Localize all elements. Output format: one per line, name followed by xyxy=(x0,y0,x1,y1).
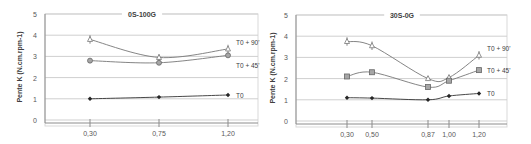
y-axis-label: Pente K (N.cm.rpm-1) xyxy=(16,31,24,102)
circle-marker-icon xyxy=(157,60,162,65)
series-label: T0 + 90' xyxy=(487,45,510,52)
series-label: T0 xyxy=(487,90,495,97)
square-marker-icon xyxy=(345,74,350,79)
square-marker-icon xyxy=(370,70,375,75)
y-tick-label: 4 xyxy=(284,33,288,40)
diamond-marker-icon xyxy=(477,91,481,95)
triangle-marker-icon xyxy=(88,36,93,41)
y-tick-label: 0 xyxy=(33,117,37,124)
x-tick-label: 0,50 xyxy=(365,131,379,138)
series-label: T0 + 45' xyxy=(487,67,510,74)
chart-right-svg: 0123450,300,500,871,001,2030S-0GPente K … xyxy=(265,0,531,144)
square-marker-icon xyxy=(477,68,482,73)
chart-left: 0123450,300,751,200S-100GPente K (N.cm.r… xyxy=(0,0,265,144)
diamond-marker-icon xyxy=(447,94,451,98)
diamond-marker-icon xyxy=(345,95,349,99)
square-marker-icon xyxy=(447,78,452,83)
circle-marker-icon xyxy=(226,53,231,58)
chart-right: 0123450,300,500,871,001,2030S-0GPente K … xyxy=(265,0,531,144)
y-tick-label: 1 xyxy=(33,96,37,103)
diamond-marker-icon xyxy=(226,93,230,97)
y-axis-label: Pente K (N.cm.rpm-1) xyxy=(269,32,277,103)
plot-frame xyxy=(45,14,258,126)
chart-title: 30S-0G xyxy=(390,12,415,19)
y-tick-label: 2 xyxy=(33,75,37,82)
y-tick-label: 1 xyxy=(284,97,288,104)
x-tick-label: 1,20 xyxy=(221,130,235,137)
x-tick-label: 0,30 xyxy=(340,131,354,138)
square-marker-icon xyxy=(426,85,431,90)
series-line xyxy=(347,93,479,99)
circle-marker-icon xyxy=(88,58,93,63)
y-tick-label: 4 xyxy=(33,32,37,39)
x-tick-label: 0,87 xyxy=(421,131,435,138)
y-tick-label: 3 xyxy=(33,53,37,60)
diamond-marker-icon xyxy=(426,98,430,102)
triangle-marker-icon xyxy=(226,46,231,51)
x-tick-label: 1,00 xyxy=(442,131,456,138)
series-line xyxy=(347,42,479,82)
series-label: T0 + 90' xyxy=(236,39,259,46)
y-tick-label: 0 xyxy=(284,118,288,125)
x-tick-label: 1,20 xyxy=(472,131,486,138)
x-tick-label: 0,75 xyxy=(152,130,166,137)
y-tick-label: 5 xyxy=(33,11,37,18)
chart-title: 0S-100G xyxy=(128,11,157,18)
triangle-marker-icon xyxy=(345,39,350,44)
y-tick-label: 2 xyxy=(284,76,288,83)
series-label: T0 xyxy=(236,92,244,99)
x-tick-label: 0,30 xyxy=(83,130,97,137)
series-label: T0 + 45' xyxy=(236,62,259,69)
chart-left-svg: 0123450,300,751,200S-100GPente K (N.cm.r… xyxy=(0,0,265,144)
triangle-marker-icon xyxy=(477,52,482,57)
y-tick-label: 3 xyxy=(284,54,288,61)
diamond-marker-icon xyxy=(88,97,92,101)
y-tick-label: 5 xyxy=(284,12,288,19)
